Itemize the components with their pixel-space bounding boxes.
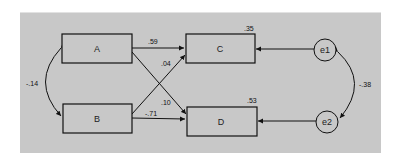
node-d-label: D	[218, 117, 225, 127]
path-diagram: -.14 -.38 .59 .04 .10 -.71 A B C .35 D .…	[0, 0, 401, 162]
coef-label-b-d: -.71	[145, 110, 157, 117]
node-c-label: C	[217, 44, 224, 54]
r2-label-d: .53	[247, 97, 257, 104]
node-a-label: A	[94, 44, 100, 54]
node-e2-label: e2	[322, 117, 332, 127]
r2-label-c: .35	[244, 25, 254, 32]
covariance-arrow-e1-e2	[338, 52, 355, 118]
covariance-label-e1-e2: -.38	[359, 81, 371, 88]
path-b-d	[132, 118, 185, 119]
node-b-label: B	[94, 114, 100, 124]
covariance-label-a-b: -.14	[26, 80, 38, 87]
coef-label-b-c: .04	[161, 60, 171, 67]
node-e1-label: e1	[320, 45, 330, 55]
coef-label-a-c: .59	[148, 38, 158, 45]
covariance-arrow-a-b	[46, 48, 62, 116]
path-b-c	[132, 55, 185, 114]
coef-label-a-d: .10	[161, 99, 171, 106]
